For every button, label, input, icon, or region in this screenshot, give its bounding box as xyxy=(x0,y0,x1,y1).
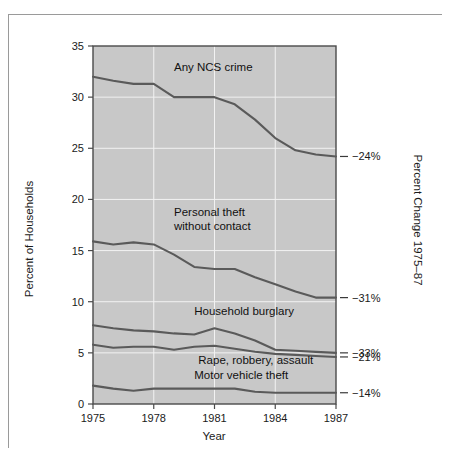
x-tick-label: 1975 xyxy=(81,412,105,424)
y-tick-label: 10 xyxy=(72,296,84,308)
x-tick-label: 1987 xyxy=(324,412,348,424)
percent-change-label-rape-robbery-assault: −21% xyxy=(352,351,381,363)
secondary-y-axis-title: Percent Change 1975–87 xyxy=(412,154,424,285)
series-label-household-burglary: Household burglary xyxy=(194,305,294,317)
y-tick-label: 35 xyxy=(72,40,84,52)
y-tick-label: 30 xyxy=(72,91,84,103)
x-tick-label: 1978 xyxy=(142,412,166,424)
percent-change-label-any-ncs-crime: −24% xyxy=(352,150,381,162)
figure-frame: 05101520253035 19751978198119841987 Any … xyxy=(8,14,442,448)
y-tick-label: 5 xyxy=(78,347,84,359)
x-tick-label: 1981 xyxy=(202,412,226,424)
crime-trend-line-chart: 05101520253035 19751978198119841987 Any … xyxy=(9,15,443,449)
y-tick-label: 15 xyxy=(72,245,84,257)
percent-change-label-personal-theft-without-contact: −31% xyxy=(352,292,381,304)
series-label-motor-vehicle-theft: Motor vehicle theft xyxy=(194,369,289,381)
y-tick-label: 20 xyxy=(72,193,84,205)
y-axis-title: Percent of Households xyxy=(23,181,35,298)
series-label-any-ncs-crime: Any NCS crime xyxy=(174,61,253,73)
y-tick-label: 0 xyxy=(78,398,84,410)
x-tick-label: 1984 xyxy=(263,412,287,424)
series-label-rape-robbery-assault: Rape, robbery, assault xyxy=(198,354,314,366)
y-tick-label: 25 xyxy=(72,142,84,154)
percent-change-label-motor-vehicle-theft: −14% xyxy=(352,387,381,399)
x-axis-title: Year xyxy=(202,430,225,442)
